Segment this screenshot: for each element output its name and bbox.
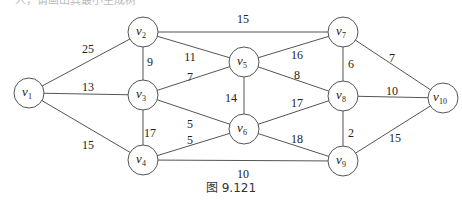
edge-v9-v10: [343, 98, 443, 161]
node-v3: v3: [128, 80, 158, 110]
edge-weight-v2-v3: 9: [147, 55, 153, 69]
edge-weight-v1-v4: 15: [82, 138, 94, 152]
node-v10: v10: [428, 83, 458, 113]
edge-v4-v6: [143, 129, 244, 160]
node-v2: v2: [128, 17, 158, 47]
edge-v4-v9: [143, 160, 343, 161]
edge-weight-v5-v6: 14: [225, 91, 237, 105]
edge-weight-v3-v6: 5: [187, 117, 193, 131]
node-v1: v1: [14, 78, 44, 108]
edge-weight-v3-v5: 7: [187, 70, 193, 84]
edge-weight-v4-v6: 5: [187, 133, 193, 147]
weighted-graph: 2513159111571755101416817186710215 v1v2v…: [0, 0, 462, 205]
edge-weight-v1-v3: 13: [82, 80, 94, 94]
edge-weight-v1-v2: 25: [82, 42, 94, 56]
edge-weight-v2-v7: 15: [237, 12, 249, 26]
edge-weight-v8-v9: 2: [348, 126, 354, 140]
node-v4: v4: [128, 145, 158, 175]
edge-weight-v5-v8: 8: [294, 68, 300, 82]
node-v9: v9: [328, 146, 358, 176]
edge-weight-v8-v10: 10: [386, 84, 398, 98]
edge-weight-v7-v8: 6: [348, 57, 354, 71]
edge-weight-v2-v5: 11: [184, 50, 196, 64]
edge-weight-v9-v10: 15: [389, 131, 401, 145]
figure-caption: 图 9.121: [0, 178, 462, 195]
edge-weight-v5-v7: 16: [291, 48, 303, 62]
edge-weight-v6-v8: 17: [291, 96, 303, 110]
edge-weight-v3-v4: 17: [144, 126, 156, 140]
cut-off-header-text: 一人，请画出其最小生成树: [4, 0, 136, 7]
node-v7: v7: [328, 17, 358, 47]
edge-weight-v6-v9: 18: [291, 132, 303, 146]
graph-figure: 一人，请画出其最小生成树 251315911157175510141681718…: [0, 0, 462, 205]
node-v8: v8: [328, 81, 358, 111]
node-v5: v5: [229, 47, 259, 77]
edge-weight-v7-v10: 7: [389, 51, 395, 65]
node-v6: v6: [229, 114, 259, 144]
